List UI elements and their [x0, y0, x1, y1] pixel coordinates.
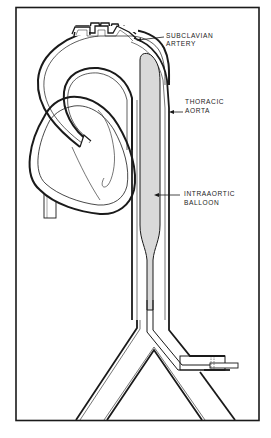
label-intraaortic-balloon: INTRAAORTIC BALLOON — [184, 190, 235, 206]
arch-branch-vessels — [70, 23, 138, 41]
femoral-sheath — [180, 356, 238, 370]
iabp-diagram: SUBCLAVIAN ARTERY THORACIC AORTA INTRAAO… — [0, 0, 271, 438]
label-thoracic-line1: THORACIC — [185, 98, 224, 105]
label-thoracic-aorta: THORACIC AORTA — [185, 98, 224, 114]
label-balloon-line1: INTRAAORTIC — [184, 190, 235, 197]
label-subclavian-artery: SUBCLAVIAN ARTERY — [166, 32, 213, 47]
label-subclavian-line1: SUBCLAVIAN — [166, 32, 213, 39]
subclavian-pointer — [138, 37, 164, 40]
label-balloon-line2: BALLOON — [184, 199, 219, 206]
label-subclavian-line2: ARTERY — [166, 40, 196, 47]
intraaortic-balloon — [140, 53, 160, 310]
label-thoracic-line2: AORTA — [185, 107, 210, 114]
